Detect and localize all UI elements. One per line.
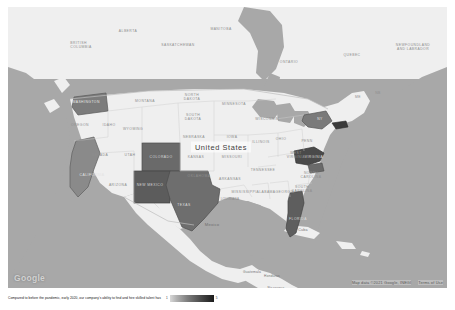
province-label: QUEBEC bbox=[343, 53, 360, 57]
place-label-nicaragua: Nicaragua bbox=[268, 286, 285, 288]
state-label: KANSAS bbox=[188, 155, 204, 159]
state-label: OREGON bbox=[71, 123, 89, 127]
legend-max-label: 5 bbox=[216, 296, 218, 300]
state-label: PENN bbox=[301, 139, 312, 143]
province-label: ALBERTA bbox=[119, 29, 137, 33]
state-label: LOUISIANA bbox=[221, 197, 240, 201]
legend: 1 5 bbox=[166, 295, 217, 302]
screenshot-root: BRITISHCOLUMBIA ALBERTA SASKATCHEWAN MAN… bbox=[0, 0, 455, 310]
terms-of-use-link[interactable]: Terms of Use bbox=[418, 280, 443, 285]
map-attribution: Map data ©2021 Google, INEGI Terms of Us… bbox=[352, 280, 443, 285]
state-label: MISSOURI bbox=[222, 155, 242, 159]
state-label: ARKANSAS bbox=[219, 177, 241, 181]
province-label: ONTARIO bbox=[280, 60, 298, 64]
state-label: FLORIDA bbox=[289, 217, 307, 221]
state-label: TENNESSEE bbox=[251, 168, 276, 172]
state-label: ME bbox=[355, 95, 361, 99]
state-label: NEVADA bbox=[92, 153, 108, 157]
state-label: NEW MEXICO bbox=[137, 183, 164, 187]
state-label: MISSISSIPPI bbox=[231, 190, 256, 194]
state-label: NB bbox=[375, 91, 381, 95]
state-label: NY bbox=[317, 117, 323, 121]
state-label: WASHINGTON bbox=[72, 100, 100, 104]
province-label: BRITISHCOLUMBIA bbox=[70, 41, 91, 49]
state-label: ARIZONA bbox=[109, 183, 127, 187]
place-label-guatemala: Guatemala bbox=[243, 270, 261, 274]
state-label: MONTANA bbox=[135, 99, 155, 103]
state-label: ILLINOIS bbox=[252, 140, 270, 144]
place-label-honduras: Honduras bbox=[264, 274, 280, 278]
state-label: TEXAS bbox=[177, 203, 190, 207]
province-label: NEWFOUNDLANDAND LABRADOR bbox=[396, 43, 430, 52]
state-label: COLORADO bbox=[149, 155, 172, 159]
state-label: NORTHCAROLINA bbox=[301, 171, 322, 180]
place-label-cuba: Cuba bbox=[298, 228, 307, 232]
map-data-attribution: Map data ©2021 Google, INEGI bbox=[352, 280, 411, 285]
state-label: IDAHO bbox=[103, 123, 116, 127]
google-watermark: Google bbox=[14, 273, 45, 283]
map-container[interactable]: BRITISHCOLUMBIA ALBERTA SASKATCHEWAN MAN… bbox=[8, 7, 447, 288]
country-label-united-states: United States bbox=[191, 142, 251, 153]
province-label: MANITOBA bbox=[210, 27, 231, 31]
state-label: SOUTHCAROLINA bbox=[292, 185, 313, 194]
state-label: UTAH bbox=[125, 153, 136, 157]
state-label: IOWA bbox=[227, 135, 238, 139]
state-label: NEBRASKA bbox=[183, 135, 205, 139]
state-label: OKLAHOMA bbox=[188, 174, 211, 178]
state-label: CALIFORNIA bbox=[80, 173, 105, 177]
state-label: NORTHDAKOTA bbox=[184, 93, 200, 102]
state-label: VIRGINIA bbox=[305, 155, 323, 159]
country-label-mexico: Mexico bbox=[205, 222, 219, 227]
state-label: WESTVIRGINIA bbox=[287, 151, 305, 160]
state-label: OHIO bbox=[276, 137, 286, 141]
legend-gradient-bar bbox=[170, 295, 214, 302]
state-label: WYOMING bbox=[123, 127, 143, 131]
caption-row: Compared to before the pandemic, early 2… bbox=[8, 293, 447, 303]
legend-min-label: 1 bbox=[166, 296, 168, 300]
caption-text: Compared to before the pandemic, early 2… bbox=[8, 296, 161, 300]
state-label: ALABAMA bbox=[256, 190, 275, 194]
state-label: SOUTHDAKOTA bbox=[185, 113, 201, 122]
state-label: WISCONSIN bbox=[255, 117, 279, 121]
province-label: SASKATCHEWAN bbox=[161, 43, 194, 47]
state-label: MINNESOTA bbox=[222, 102, 246, 106]
